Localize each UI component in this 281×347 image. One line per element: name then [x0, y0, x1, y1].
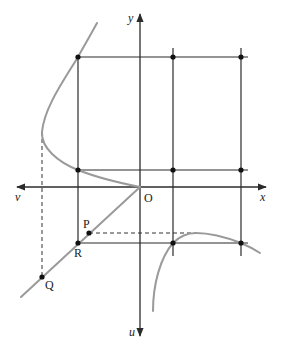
diagram-canvas: y x v u O P R Q [0, 0, 281, 347]
point-p-label: P [83, 217, 90, 231]
axes [17, 14, 266, 336]
point-grid-5 [170, 167, 175, 172]
upper-left-curve [42, 23, 140, 187]
point-grid-3 [238, 54, 243, 59]
u-axis-label: u [129, 325, 135, 339]
point-grid-2 [170, 54, 175, 59]
point-r [75, 240, 80, 245]
point-grid-1 [75, 54, 80, 59]
v-axis-label: v [15, 190, 21, 204]
x-axis-label: x [259, 190, 266, 204]
point-grid-9 [238, 240, 243, 245]
construction-grid [78, 48, 248, 256]
origin-label: O [144, 191, 153, 205]
point-grid-8 [170, 240, 175, 245]
point-grid-6 [238, 167, 243, 172]
point-r-label: R [74, 246, 82, 260]
diagonal-45-line [21, 187, 140, 297]
point-p [86, 230, 91, 235]
point-q-label: Q [45, 278, 54, 292]
point-q [39, 274, 44, 279]
y-axis-label: y [127, 11, 134, 25]
lower-right-curve [153, 233, 260, 311]
point-grid-4 [75, 167, 80, 172]
